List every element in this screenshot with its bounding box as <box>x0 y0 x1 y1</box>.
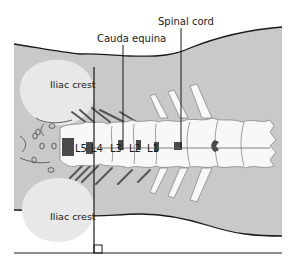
lumbar-spine-diagram: L5 L4 L3 L2 L1 Iliac crest Iliac crest C… <box>0 0 294 276</box>
label-L4: L4 <box>91 143 103 154</box>
iliac-crest-bottom-shape <box>22 178 94 242</box>
label-iliac-crest-top: Iliac crest <box>50 79 96 90</box>
label-L1: L1 <box>147 143 159 154</box>
label-L5: L5 <box>75 143 87 154</box>
label-cauda-equina: Cauda equina <box>97 33 166 44</box>
label-L2: L2 <box>129 143 141 154</box>
label-iliac-crest-bottom: Iliac crest <box>50 211 96 222</box>
label-spinal-cord: Spinal cord <box>158 16 214 27</box>
right-angle-marker <box>94 245 102 253</box>
label-L3: L3 <box>110 143 122 154</box>
